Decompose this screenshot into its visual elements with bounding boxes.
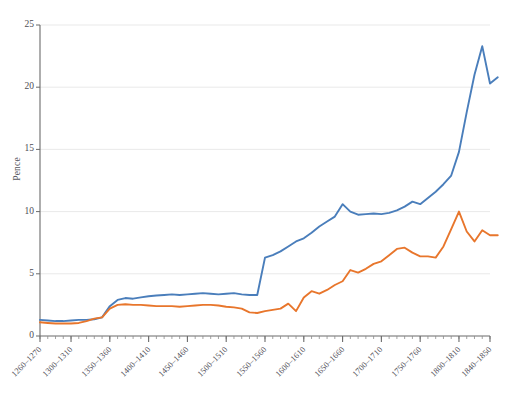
- y-tick-label-5: 5: [8, 269, 34, 278]
- gridlines: [40, 25, 490, 274]
- axis-lines: [40, 25, 490, 336]
- y-tick-label-0: 0: [8, 331, 34, 340]
- y-tick-label-25: 25: [8, 20, 34, 29]
- y-tick-label-15: 15: [8, 144, 34, 153]
- y-tick-label-20: 20: [8, 82, 34, 91]
- figure-title: [0, 0, 518, 1]
- x-tick-marks: [40, 336, 490, 342]
- y-tick-marks: [36, 25, 40, 336]
- chart-figure: Pence 0510152025 1260–12701300–13101350–…: [0, 0, 518, 413]
- y-tick-label-10: 10: [8, 207, 34, 216]
- series-layer: [40, 46, 498, 323]
